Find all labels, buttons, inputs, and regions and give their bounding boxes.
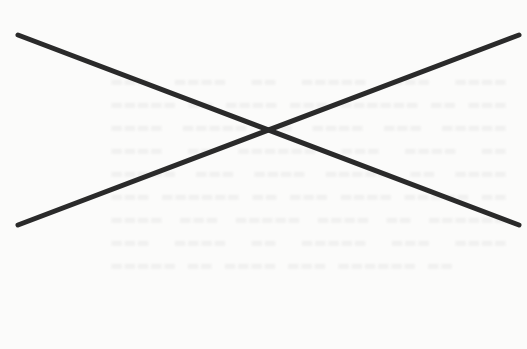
scanned-page: ▬▬▬ ▬▬▬▬ ▬▬ ▬▬▬▬▬ ▬▬▬ ▬▬▬▬ ▬▬▬▬▬ ▬▬ ▬▬▬▬… [0,0,527,349]
cross-out-mark [0,0,527,349]
